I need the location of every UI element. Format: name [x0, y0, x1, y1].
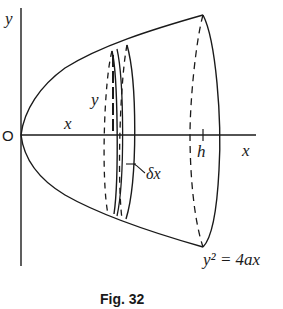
solid-of-revolution-diagram: y O x y h x δx y² = 4ax Fig. 32 — [0, 0, 283, 309]
y-height-label: y — [89, 90, 99, 109]
parabola-curve-lower — [21, 135, 203, 247]
equation-label: y² = 4ax — [201, 250, 261, 269]
x-distance-label: x — [63, 114, 72, 133]
disk-right-front — [126, 45, 135, 219]
origin-label: O — [2, 127, 14, 144]
delta-x-label: δx — [146, 165, 161, 182]
end-ellipse-front — [203, 15, 220, 247]
y-axis-label: y — [3, 9, 13, 28]
x-axis-label: x — [241, 141, 250, 160]
disk-left-back — [104, 51, 112, 214]
h-label: h — [197, 142, 206, 161]
delta-x-leader — [134, 164, 145, 173]
figure-caption: Fig. 32 — [100, 291, 145, 307]
end-ellipse-back — [190, 15, 203, 247]
